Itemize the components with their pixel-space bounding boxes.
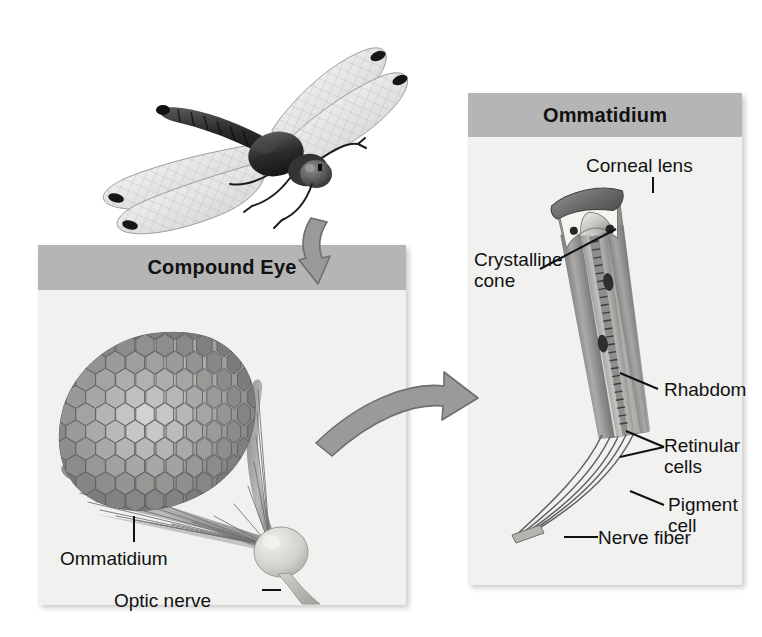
abdomen <box>156 105 266 154</box>
label-rhabdom: Rhabdom <box>664 379 746 400</box>
panel-ommatidium: Ommatidium <box>468 93 742 585</box>
ommatidium-illustration <box>468 137 742 585</box>
leader-pigment-cell <box>630 491 664 505</box>
label-corneal-lens: Corneal lens <box>586 155 693 176</box>
panel-title-compound-eye: Compound Eye <box>38 245 406 290</box>
label-crystalline-cone-line2: cone <box>474 270 515 291</box>
figure-canvas: Compound Eye <box>0 0 762 637</box>
label-retinular-cells-line1: Retinular <box>664 435 740 456</box>
optic-nerve <box>254 527 320 604</box>
label-nerve-fiber: Nerve fiber <box>598 527 691 548</box>
panel-title-ommatidium: Ommatidium <box>468 93 742 137</box>
label-retinular-cells-line2: cells <box>664 456 702 477</box>
ommatidium-body <box>549 184 661 441</box>
label-pigment-cell-line1: Pigment <box>668 494 738 515</box>
label-ommatidium: Ommatidium <box>60 548 168 569</box>
panel-body-compound-eye: Ommatidium Optic nerve <box>38 290 406 605</box>
dragonfly-illustration <box>60 12 420 262</box>
nerve-fiber-bundle <box>512 525 544 543</box>
label-optic-nerve: Optic nerve <box>114 590 211 611</box>
label-crystalline-cone-line1: Crystalline <box>474 249 563 270</box>
panel-body-ommatidium: Corneal lens Crystalline cone Rhabdom Re… <box>468 137 742 585</box>
nerve-fibers <box>514 433 634 537</box>
panel-compound-eye: Compound Eye <box>38 245 406 605</box>
